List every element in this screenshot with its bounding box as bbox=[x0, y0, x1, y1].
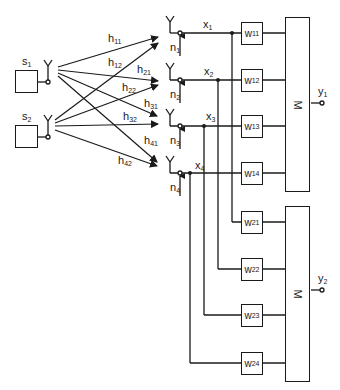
label-n1: n1 bbox=[170, 42, 180, 54]
rx-antenna-3 bbox=[166, 109, 285, 149]
rx-antenna-2 bbox=[166, 63, 285, 103]
output-y1-line bbox=[311, 101, 324, 105]
source-box-s2 bbox=[15, 125, 38, 148]
label-n2: n2 bbox=[170, 89, 180, 101]
tx-antenna-1 bbox=[38, 60, 52, 84]
label-x1: x1 bbox=[203, 19, 212, 31]
combiner-m1: M bbox=[285, 17, 310, 192]
weight-w24: w24 bbox=[241, 352, 263, 375]
label-h41: h41 bbox=[144, 135, 158, 147]
rx-antenna-4 bbox=[166, 156, 285, 196]
label-n3: n3 bbox=[170, 135, 180, 147]
weight-w12: w12 bbox=[241, 69, 263, 92]
label-s2: s2 bbox=[22, 111, 31, 123]
label-h42: h42 bbox=[118, 155, 132, 167]
label-h22: h22 bbox=[122, 82, 136, 94]
rx-antenna-1 bbox=[166, 16, 285, 56]
label-y1: y1 bbox=[318, 86, 327, 98]
weight-w21: w21 bbox=[241, 211, 263, 234]
label-h31: h31 bbox=[144, 98, 158, 110]
label-h12: h12 bbox=[108, 57, 122, 69]
signal-taps bbox=[190, 33, 285, 363]
label-x4: x4 bbox=[195, 160, 204, 172]
source-box-s1 bbox=[15, 70, 38, 93]
weight-w11: w11 bbox=[241, 22, 263, 45]
label-h11: h11 bbox=[108, 33, 121, 45]
weight-w14: w14 bbox=[241, 162, 263, 185]
combiner-m2: M bbox=[285, 206, 310, 382]
label-h21: h21 bbox=[137, 64, 151, 76]
label-y2: y2 bbox=[318, 273, 327, 285]
weight-w13: w13 bbox=[241, 115, 263, 138]
output-y2-line bbox=[311, 288, 324, 292]
label-h32: h32 bbox=[123, 111, 137, 123]
weight-w22: w22 bbox=[241, 258, 263, 281]
label-x3: x3 bbox=[206, 111, 215, 123]
label-n4: n4 bbox=[170, 182, 180, 194]
tx-antenna-2 bbox=[38, 115, 52, 139]
mimo-block-diagram: s1 s2 h11 h12 h21 h22 h31 h32 h41 h42 x1… bbox=[0, 0, 340, 390]
junction-dots bbox=[188, 31, 234, 175]
channel-arrows bbox=[55, 37, 158, 166]
weight-w23: w23 bbox=[241, 304, 263, 327]
label-x2: x2 bbox=[204, 66, 213, 78]
label-s1: s1 bbox=[22, 56, 31, 68]
